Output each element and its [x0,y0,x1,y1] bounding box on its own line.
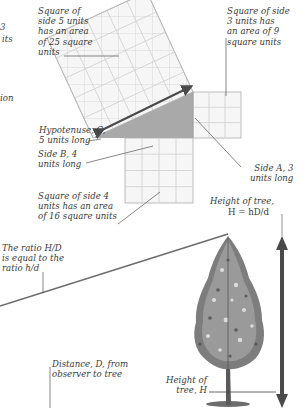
label-ratio: The ratio H/D is equal to the ratio h/d [2,243,64,274]
height-arrow [276,214,288,408]
label-square-b: Square of side 4 units has an area of 16… [38,191,117,222]
label-hypotenuse: Hypotenuse, C, 5 units long [39,125,106,145]
label-side-b: Side B, 4 units long [38,149,81,169]
cropped-label-fragment-3: ion [0,93,13,103]
square-b-16 [125,138,193,203]
label-height-of-tree: Height of tree, H [166,375,207,395]
label-square-c: Square of side 5 units has an area of 25… [38,6,93,57]
label-height-formula-title: Height of tree, [210,196,274,206]
label-square-a: Square of side 3 units has an area of 9 … [227,6,290,47]
label-distance: Distance, D, from observer to tree [52,359,128,379]
square-a-9 [193,92,241,138]
cropped-label-fragment-2: its [0,34,13,44]
label-side-a: Side A, 3 units long [250,163,293,183]
label-height-formula: H = hD/d [228,207,269,217]
cropped-label-fragment-1: 3 [0,22,5,32]
